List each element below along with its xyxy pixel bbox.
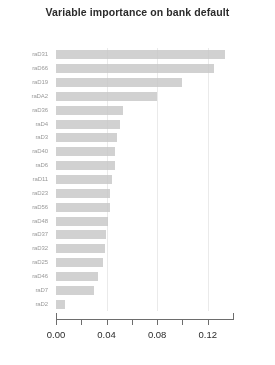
variable-importance-chart: Variable importance on bank default raD3…: [0, 0, 275, 365]
y-axis-label: raD2: [35, 300, 48, 309]
bar-row: [56, 161, 233, 170]
bar-row: [56, 50, 233, 59]
bar: [56, 175, 112, 184]
y-axis-label: raD66: [32, 64, 48, 73]
bar: [56, 120, 120, 129]
bar-row: [56, 286, 233, 295]
bar-row: [56, 64, 233, 73]
x-tick: [107, 319, 108, 325]
bar-row: [56, 120, 233, 129]
bar-row: [56, 272, 233, 281]
bar: [56, 161, 115, 170]
bar-row: [56, 300, 233, 309]
x-tick: [132, 319, 133, 325]
bar: [56, 78, 182, 87]
bar-series: [56, 48, 233, 311]
x-axis-tick-label: 0.12: [198, 329, 217, 340]
x-axis-tick-label: 0.08: [148, 329, 167, 340]
y-axis-label: raD32: [32, 244, 48, 253]
y-axis-label: raD19: [32, 78, 48, 87]
x-tick: [182, 319, 183, 325]
x-tick: [157, 319, 158, 325]
bar-row: [56, 78, 233, 87]
y-axis-label: raD3: [35, 133, 48, 142]
y-axis-label: raD6: [35, 161, 48, 170]
bar-row: [56, 258, 233, 267]
bar: [56, 50, 225, 59]
bar: [56, 147, 115, 156]
y-axis-label: raD40: [32, 147, 48, 156]
y-axis-label: raD4: [35, 120, 48, 129]
bar-row: [56, 217, 233, 226]
x-tick: [208, 319, 209, 325]
bar: [56, 64, 214, 73]
bar: [56, 217, 108, 226]
y-axis-label: raD46: [32, 272, 48, 281]
x-axis-cap-1: [233, 313, 234, 320]
y-axis-label: raDA2: [31, 92, 48, 101]
bar: [56, 189, 110, 198]
bar-row: [56, 175, 233, 184]
y-axis-label: raD56: [32, 203, 48, 212]
x-tick: [81, 319, 82, 325]
x-axis-tick-label: 0.00: [47, 329, 66, 340]
bar: [56, 133, 117, 142]
y-axis-label: raD37: [32, 230, 48, 239]
bar-row: [56, 133, 233, 142]
bar-row: [56, 230, 233, 239]
chart-title: Variable importance on bank default: [0, 6, 275, 18]
y-axis-label: raD31: [32, 50, 48, 59]
bar: [56, 258, 103, 267]
plot-area: [56, 48, 233, 311]
x-axis-cap-0: [56, 313, 57, 320]
bar-row: [56, 244, 233, 253]
bar: [56, 230, 106, 239]
bar-row: [56, 189, 233, 198]
bar: [56, 244, 105, 253]
x-axis-line: [56, 319, 233, 320]
x-axis-tick-label: 0.04: [97, 329, 116, 340]
y-axis-label: raD48: [32, 217, 48, 226]
y-axis-labels: raD31raD66raD19raDA2raD36raD4raD3raD40ra…: [0, 48, 52, 311]
bar: [56, 300, 65, 309]
y-axis-label: raD25: [32, 258, 48, 267]
bar: [56, 272, 98, 281]
y-axis-label: raD23: [32, 189, 48, 198]
bar: [56, 92, 157, 101]
bar: [56, 106, 123, 115]
bar-row: [56, 147, 233, 156]
y-axis-label: raD7: [35, 286, 48, 295]
bar-row: [56, 92, 233, 101]
y-axis-label: raD11: [33, 175, 48, 184]
bar-row: [56, 203, 233, 212]
bar: [56, 286, 94, 295]
y-axis-label: raD36: [32, 106, 48, 115]
bar: [56, 203, 110, 212]
bar-row: [56, 106, 233, 115]
